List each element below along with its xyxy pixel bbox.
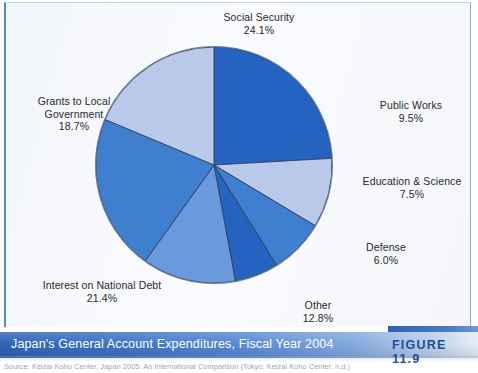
slice-label-grants-text-line1: Grants to Local xyxy=(38,95,111,107)
chart-panel: Social Security 24.1% Public Works 9.5% … xyxy=(4,2,471,327)
slice-label-other: Other 12.8% xyxy=(268,299,368,324)
slice-label-defense-text: Defense xyxy=(366,241,406,253)
figure-caption-text: Japan's General Account Expenditures, Fi… xyxy=(11,337,334,351)
slice-label-grants-pct: 18.7% xyxy=(14,120,134,133)
pie-slice-social-security xyxy=(214,47,332,165)
slice-label-other-pct: 12.8% xyxy=(268,312,368,325)
pie-slice-group xyxy=(96,47,332,283)
slice-label-grants-text-line2: Government xyxy=(14,108,134,121)
figure-container: Social Security 24.1% Public Works 9.5% … xyxy=(0,0,478,373)
slice-label-education-science-text: Education & Science xyxy=(363,175,462,187)
figure-number-label: FIGURE 11.9 xyxy=(392,338,478,366)
slice-label-education-science: Education & Science 7.5% xyxy=(346,175,478,200)
slice-label-defense: Defense 6.0% xyxy=(336,241,436,266)
pie-chart xyxy=(94,45,334,285)
slice-label-grants-to-local-government: Grants to Local Government 18.7% xyxy=(14,95,134,133)
slice-label-social-security-text: Social Security xyxy=(224,11,295,23)
slice-label-interest-text: Interest on National Debt xyxy=(43,279,162,291)
slice-label-interest-on-national-debt: Interest on National Debt 21.4% xyxy=(12,279,192,304)
slice-label-social-security-pct: 24.1% xyxy=(184,24,334,37)
slice-label-other-text: Other xyxy=(305,299,332,311)
slice-label-social-security: Social Security 24.1% xyxy=(184,11,334,36)
pie-chart-svg xyxy=(94,45,334,285)
slice-label-defense-pct: 6.0% xyxy=(336,254,436,267)
slice-label-interest-pct: 21.4% xyxy=(12,292,192,305)
slice-label-public-works: Public Works 9.5% xyxy=(356,99,466,124)
slice-label-public-works-pct: 9.5% xyxy=(356,112,466,125)
slice-label-public-works-text: Public Works xyxy=(380,99,442,111)
slice-label-education-science-pct: 7.5% xyxy=(346,188,478,201)
